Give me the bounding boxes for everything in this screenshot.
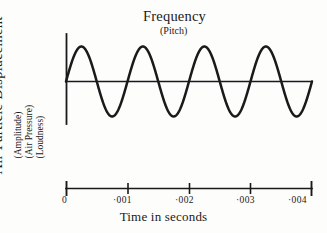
plot-area: [0, 0, 327, 233]
x-tick-label-4: ·004: [288, 195, 307, 205]
x-axis-caption: Time in seconds: [0, 209, 327, 225]
x-tick-label-2: ·002: [175, 195, 194, 205]
x-tick-label-3: ·003: [236, 195, 255, 205]
x-tick-label-1: ·001: [113, 195, 132, 205]
figure-canvas: Air Particle Displacement (Amplitude) (A…: [0, 0, 327, 233]
x-tick-label-0: 0: [62, 195, 67, 205]
